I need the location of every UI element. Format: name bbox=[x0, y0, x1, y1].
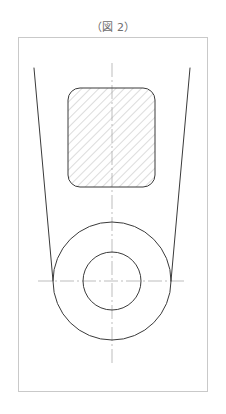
section-hatch-fill bbox=[68, 88, 155, 187]
hatched-section-group bbox=[68, 88, 155, 187]
right-taper-line bbox=[171, 68, 190, 281]
figure-page: （図 2） bbox=[0, 0, 226, 414]
technical-drawing-canvas bbox=[0, 0, 226, 414]
left-taper-line bbox=[34, 68, 53, 281]
